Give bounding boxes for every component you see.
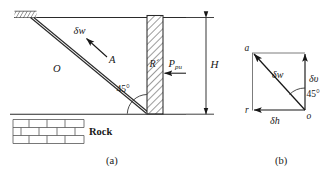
panel-b: δυ δh δw 45° a r o (b) bbox=[245, 43, 321, 167]
rock-label: Rock bbox=[89, 126, 112, 137]
node-r-label: r bbox=[245, 105, 249, 115]
delta-w-vector bbox=[254, 54, 305, 110]
ground-hatch-symbol bbox=[15, 11, 37, 17]
node-o-label: o bbox=[307, 111, 312, 121]
reaction-r-label: R´ bbox=[149, 58, 160, 69]
angle-45-label-b: 45° bbox=[307, 89, 321, 99]
delta-v-label: δυ bbox=[309, 73, 319, 84]
figure-svg: δw A O 45° R´ Ppu H bbox=[0, 0, 335, 176]
point-o-label: O bbox=[53, 63, 61, 74]
angle-45-label-a: 45° bbox=[117, 84, 131, 94]
angle-arc-b bbox=[290, 88, 306, 95]
force-ppu-label: Ppu bbox=[168, 58, 183, 72]
figure-root: δw A O 45° R´ Ppu H bbox=[0, 0, 335, 176]
caption-a: (a) bbox=[106, 155, 118, 167]
point-a-label: A bbox=[108, 54, 116, 65]
delta-h-label: δh bbox=[270, 115, 280, 126]
height-label: H bbox=[210, 58, 220, 70]
delta-w-arrow bbox=[87, 39, 108, 58]
delta-w-label-b: δw bbox=[272, 69, 284, 80]
force-ppu-subscript: pu bbox=[174, 63, 183, 71]
panel-a: δw A O 45° R´ Ppu H bbox=[10, 11, 220, 167]
node-a-label: a bbox=[245, 43, 250, 53]
slip-plane bbox=[31, 18, 150, 114]
rock-masonry-pattern bbox=[13, 120, 84, 144]
delta-w-label: δw bbox=[74, 25, 86, 36]
caption-b: (b) bbox=[275, 155, 288, 167]
